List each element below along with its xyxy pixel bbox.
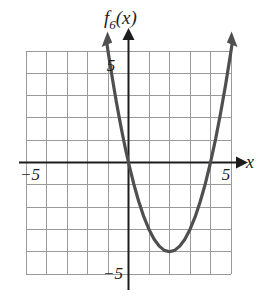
function-name-label: f6(x): [104, 7, 137, 32]
curve-left-arrowhead-icon: [102, 32, 113, 48]
coordinate-plane-svg: 5 −5 −5 5 x f6(x): [0, 0, 263, 302]
x-axis-tick-label-positive: 5: [222, 165, 231, 184]
graph-figure: 5 −5 −5 5 x f6(x): [0, 0, 263, 302]
x-axis-tick-label-negative: −5: [20, 165, 40, 184]
x-axis-name-label: x: [245, 152, 254, 172]
y-axis-tick-label-positive: 5: [107, 56, 116, 75]
y-axis-arrowhead-icon: [123, 28, 135, 40]
function-name-argument: (x): [116, 7, 137, 29]
y-axis-tick-label-negative: −5: [103, 264, 123, 283]
axes: [19, 28, 248, 290]
curve-right-arrowhead-icon: [227, 32, 238, 48]
curve-arrowheads: [102, 32, 238, 48]
